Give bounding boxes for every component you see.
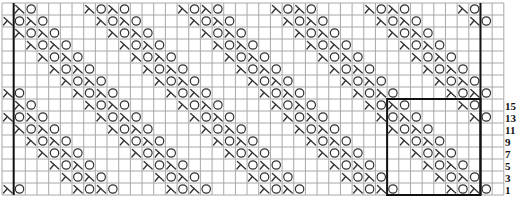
decrease-icon [412, 30, 421, 38]
decrease-icon [435, 78, 444, 86]
yarn-over-icon [155, 137, 163, 145]
knitting-chart [0, 0, 519, 199]
decrease-icon [400, 42, 409, 50]
decrease-icon [144, 66, 153, 74]
decrease-icon [167, 90, 176, 98]
yarn-over-icon [330, 149, 338, 157]
decrease-icon [319, 150, 328, 158]
decrease-icon [260, 186, 269, 194]
decrease-icon [4, 186, 13, 194]
decrease-icon [237, 66, 246, 74]
yarn-over-icon [214, 125, 222, 133]
decrease-icon [155, 174, 164, 182]
yarn-over-icon [15, 185, 23, 193]
yarn-over-icon [412, 41, 420, 49]
decrease-icon [435, 174, 444, 182]
yarn-over-icon [482, 17, 490, 25]
decrease-icon [179, 78, 188, 86]
decrease-icon [389, 6, 398, 14]
decrease-icon [74, 66, 83, 74]
decrease-icon [190, 186, 199, 194]
decrease-icon [27, 42, 36, 50]
yarn-over-icon [284, 173, 292, 181]
yarn-over-icon [167, 53, 175, 61]
decrease-icon [400, 138, 409, 146]
decrease-icon [435, 54, 444, 62]
yarn-over-icon [144, 53, 152, 61]
yarn-over-icon [74, 149, 82, 157]
yarn-over-icon [435, 161, 443, 169]
row-label: 1 [505, 184, 511, 196]
decrease-icon [179, 102, 188, 110]
yarn-over-icon [27, 5, 35, 13]
decrease-icon [144, 162, 153, 170]
yarn-over-icon [260, 53, 268, 61]
decrease-icon [459, 102, 468, 110]
decrease-icon [260, 90, 269, 98]
decrease-icon [412, 150, 421, 158]
yarn-over-icon [482, 113, 490, 121]
decrease-icon [365, 6, 374, 14]
yarn-over-icon [319, 17, 327, 25]
decrease-icon [237, 42, 246, 50]
yarn-over-icon [144, 125, 152, 133]
yarn-over-icon [62, 137, 70, 145]
decrease-icon [132, 126, 141, 134]
decrease-icon [214, 42, 223, 50]
yarn-over-icon [400, 29, 408, 37]
decrease-icon [120, 138, 129, 146]
yarn-over-icon [447, 149, 455, 157]
decrease-icon [272, 6, 281, 14]
yarn-over-icon [225, 41, 233, 49]
yarn-over-icon [50, 125, 58, 133]
yarn-over-icon [400, 101, 408, 109]
yarn-over-icon [260, 173, 268, 181]
yarn-over-icon [144, 149, 152, 157]
decrease-icon [307, 18, 316, 26]
decrease-icon [50, 66, 59, 74]
yarn-over-icon [459, 161, 467, 169]
decrease-icon [249, 54, 258, 62]
decrease-icon [412, 126, 421, 134]
decrease-icon [295, 6, 304, 14]
yarn-over-icon [39, 41, 47, 49]
decrease-icon [155, 54, 164, 62]
yarn-over-icon [354, 53, 362, 61]
yarn-over-icon [459, 185, 467, 193]
decrease-icon [365, 174, 374, 182]
yarn-over-icon [272, 161, 280, 169]
yarn-over-icon [319, 137, 327, 145]
decrease-icon [260, 162, 269, 170]
decrease-icon [272, 78, 281, 86]
decrease-icon [342, 54, 351, 62]
decrease-icon [365, 78, 374, 86]
decrease-icon [400, 114, 409, 122]
decrease-icon [319, 126, 328, 134]
yarn-over-icon [249, 161, 257, 169]
yarn-over-icon [354, 173, 362, 181]
yarn-over-icon [319, 113, 327, 121]
yarn-over-icon [179, 161, 187, 169]
decrease-icon [39, 150, 48, 158]
yarn-over-icon [424, 125, 432, 133]
yarn-over-icon [295, 17, 303, 25]
decrease-icon [109, 102, 118, 110]
decrease-icon [62, 150, 71, 158]
yarn-over-icon [424, 149, 432, 157]
decrease-icon [132, 30, 141, 38]
decrease-icon [85, 174, 94, 182]
decrease-icon [249, 150, 258, 158]
yarn-over-icon [15, 113, 23, 121]
decrease-icon [62, 54, 71, 62]
yarn-over-icon [62, 161, 70, 169]
yarn-over-icon [447, 77, 455, 85]
yarn-over-icon [459, 65, 467, 73]
decrease-icon [97, 18, 106, 26]
yarn-over-icon [307, 29, 315, 37]
decrease-icon [424, 162, 433, 170]
yarn-over-icon [377, 77, 385, 85]
decrease-icon [459, 6, 468, 14]
yarn-over-icon [85, 89, 93, 97]
yarn-over-icon [412, 113, 420, 121]
decrease-icon [295, 102, 304, 110]
